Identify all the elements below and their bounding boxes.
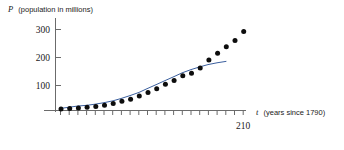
data-point xyxy=(146,90,151,95)
data-point xyxy=(233,38,238,43)
data-point xyxy=(198,66,203,71)
y-tick-label-200: 200 xyxy=(36,53,51,63)
data-point xyxy=(163,82,168,87)
data-point xyxy=(128,97,133,102)
data-point xyxy=(67,106,72,111)
y-tick-label-300: 300 xyxy=(36,25,51,35)
data-point xyxy=(224,44,229,49)
data-point xyxy=(180,73,185,78)
data-point xyxy=(241,29,246,34)
data-point xyxy=(85,105,90,110)
data-point xyxy=(206,58,211,63)
y-axis-title: P (population in millions) xyxy=(7,4,93,14)
data-point xyxy=(154,86,159,91)
x-axis-title-text: (years since 1790) xyxy=(263,108,325,117)
y-tick-label-100: 100 xyxy=(36,81,51,91)
data-point xyxy=(93,104,98,109)
y-axis-title-text: (population in millions) xyxy=(18,5,93,14)
data-point xyxy=(189,71,194,76)
y-axis-ticks xyxy=(56,30,62,86)
x-axis-variable: t xyxy=(256,107,259,117)
data-point xyxy=(137,93,142,98)
x-axis-title: t (years since 1790) xyxy=(256,107,326,117)
data-point xyxy=(119,99,124,104)
data-point xyxy=(102,103,107,108)
data-point xyxy=(172,78,177,83)
population-scatter-figure: 300 200 100 xyxy=(0,0,344,150)
data-point xyxy=(215,51,220,56)
chart-svg: 300 200 100 xyxy=(0,0,344,150)
x-axis-ticks xyxy=(61,111,244,116)
data-point xyxy=(59,106,64,111)
y-axis-variable: P xyxy=(7,4,13,14)
census-data-points xyxy=(59,29,247,112)
x-tick-label-210: 210 xyxy=(236,121,251,131)
data-point xyxy=(111,101,116,106)
data-point xyxy=(76,106,81,111)
